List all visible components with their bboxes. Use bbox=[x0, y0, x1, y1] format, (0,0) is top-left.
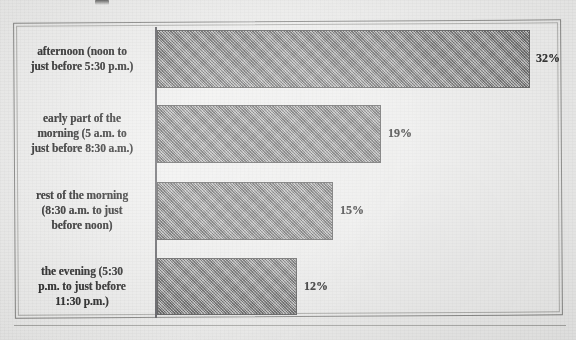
category-label-line: early part of the bbox=[12, 111, 152, 126]
bar-afternoon bbox=[157, 30, 530, 88]
bar-value-label: 32% bbox=[536, 51, 560, 66]
category-label: afternoon (noon to just before 5:30 p.m.… bbox=[12, 44, 152, 74]
category-label-line: just before 8:30 a.m.) bbox=[12, 141, 152, 156]
category-label-line: p.m. to just before bbox=[12, 279, 152, 294]
bar-value-label: 12% bbox=[304, 279, 328, 294]
category-label-line: (8:30 a.m. to just bbox=[12, 203, 152, 218]
category-label-line: rest of the morning bbox=[12, 188, 152, 203]
category-label: early part of the morning (5 a.m. to jus… bbox=[12, 111, 152, 156]
category-label-line: afternoon (noon to bbox=[12, 44, 152, 59]
category-label-line: before noon) bbox=[12, 218, 152, 233]
bar-rest-of-morning bbox=[157, 182, 333, 240]
chart-page: afternoon (noon to just before 5:30 p.m.… bbox=[0, 0, 576, 340]
bar-evening bbox=[157, 258, 297, 315]
bar-value-label: 19% bbox=[388, 126, 412, 141]
category-label-line: 11:30 p.m.) bbox=[12, 294, 152, 309]
bar-early-morning bbox=[157, 105, 381, 163]
bar-value-label: 15% bbox=[340, 203, 364, 218]
category-label: the evening (5:30 p.m. to just before 11… bbox=[12, 264, 152, 309]
category-label-line: the evening (5:30 bbox=[12, 264, 152, 279]
category-label: rest of the morning (8:30 a.m. to just b… bbox=[12, 188, 152, 233]
cut-off-title-fragment bbox=[95, 0, 109, 5]
category-label-line: morning (5 a.m. to bbox=[12, 126, 152, 141]
category-label-line: just before 5:30 p.m.) bbox=[12, 59, 152, 74]
bar-chart-plot: afternoon (noon to just before 5:30 p.m.… bbox=[0, 0, 576, 340]
